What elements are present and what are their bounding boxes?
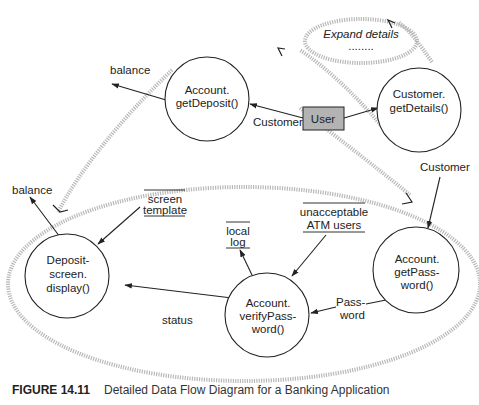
verify-password-line1: Account. (246, 297, 291, 309)
flow-password-head (311, 307, 336, 313)
verify-password-line2: verifyPass- (240, 310, 297, 322)
flow-label-password-1: Pass- (336, 296, 366, 308)
chevron-icon (278, 48, 285, 56)
flow-password-tail (366, 300, 386, 304)
flow-unacceptable-users (292, 235, 326, 276)
expand-details-label: Expand details (323, 28, 399, 40)
flow-user-to-getdetails (344, 108, 378, 118)
expand-details-ellipsis: ........ (348, 40, 374, 52)
unacceptable-line1: unacceptable (300, 206, 368, 218)
chevron-icon (402, 193, 412, 204)
deposit-display-line3: display() (46, 282, 90, 294)
flow-local-log (240, 250, 252, 275)
get-details-line1: Customer. (393, 88, 445, 100)
get-details-line2: getDetails() (390, 102, 449, 114)
deposit-display-line2: screen. (49, 268, 87, 280)
get-deposit-line2: getDeposit() (176, 97, 239, 109)
get-password-line2: getPass- (394, 266, 440, 278)
flow-label-password-2: word (339, 309, 365, 321)
local-log-line2: log (230, 236, 245, 248)
get-password-line1: Account. (395, 253, 440, 265)
flow-status (125, 285, 232, 298)
user-label: User (311, 113, 335, 125)
get-deposit-line1: Account. (185, 84, 230, 96)
figure-number: FIGURE 14.11 (12, 383, 90, 397)
flow-screen-template (98, 207, 140, 244)
deposit-display-line1: Deposit- (47, 254, 90, 266)
flow-label-status: status (162, 314, 193, 326)
expansion-line-left (58, 70, 172, 212)
flow-label-customer-user: Customer (253, 116, 303, 128)
data-flow-diagram: Account. getDeposit() Customer. getDetai… (0, 0, 479, 405)
flow-balance-left (30, 197, 63, 241)
flow-label-balance-left: balance (12, 184, 52, 196)
unacceptable-line2: ATM users (307, 219, 362, 231)
get-password-line3: word() (400, 279, 434, 291)
screen-template-line2: template (143, 204, 187, 216)
flow-balance-top (112, 84, 166, 100)
figure-caption: Detailed Data Flow Diagram for a Banking… (104, 383, 389, 397)
flow-label-balance-top: balance (110, 64, 150, 76)
verify-password-line3: word() (251, 323, 285, 335)
flow-label-customer-right: Customer (420, 161, 470, 173)
flow-customer-right (428, 177, 440, 228)
